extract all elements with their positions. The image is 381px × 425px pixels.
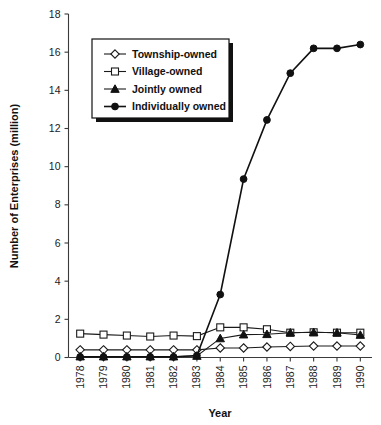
x-tick-label: 1986 [261,365,273,389]
marker-filled-circle [112,103,119,110]
x-tick-label: 1980 [120,365,132,389]
line-chart: 024681012141618 197819791980198119821983… [0,0,381,425]
y-tick-label: 0 [55,351,61,363]
legend-label: Jointly owned [132,83,202,95]
x-tick-label: 1979 [97,365,109,389]
marker-open-square [170,332,177,339]
chart-legend: Township-ownedVillage-ownedJointly owned… [92,39,233,122]
marker-open-square [123,332,130,339]
y-tick-label: 12 [49,122,61,134]
y-tick-label: 8 [55,198,61,210]
marker-filled-circle [100,354,107,361]
y-tick-label: 18 [49,8,61,20]
y-tick-label: 2 [55,313,61,325]
marker-filled-circle [170,354,177,361]
marker-open-square [147,333,154,340]
marker-filled-circle [264,117,271,124]
marker-filled-circle [217,291,224,298]
marker-filled-circle [310,45,317,52]
marker-filled-circle [194,352,201,359]
x-tick-label: 1987 [284,365,296,389]
marker-open-square [77,330,84,337]
marker-filled-circle [77,354,84,361]
legend-label: Individually owned [132,100,226,112]
marker-filled-circle [147,354,154,361]
y-tick-label: 10 [49,160,61,172]
y-tick-label: 6 [55,237,61,249]
marker-open-square [217,324,224,331]
y-tick-label: 14 [49,84,61,96]
x-tick-label: 1984 [214,365,226,389]
y-tick-label: 4 [55,275,61,287]
y-axis-title: Number of Enterprises (million) [8,103,20,268]
x-tick-label: 1989 [331,365,343,389]
marker-open-square [112,68,119,75]
x-tick-label: 1982 [167,365,179,389]
x-tick-label: 1985 [237,365,249,389]
legend-label: Village-owned [132,65,202,77]
chart-container: 024681012141618 197819791980198119821983… [0,0,381,425]
x-tick-label: 1981 [144,365,156,389]
marker-filled-circle [357,41,364,48]
marker-filled-circle [123,354,130,361]
x-tick-label: 1983 [191,365,203,389]
x-axis-title: Year [208,407,232,419]
marker-filled-circle [240,176,247,183]
y-tick-label: 16 [49,46,61,58]
marker-open-square [193,333,200,340]
marker-filled-circle [287,70,294,77]
legend-label: Township-owned [132,48,217,60]
x-tick-label: 1988 [307,365,319,389]
marker-filled-circle [334,45,341,52]
x-tick-label: 1990 [354,365,366,389]
x-tick-label: 1978 [74,365,86,389]
marker-open-square [100,331,107,338]
